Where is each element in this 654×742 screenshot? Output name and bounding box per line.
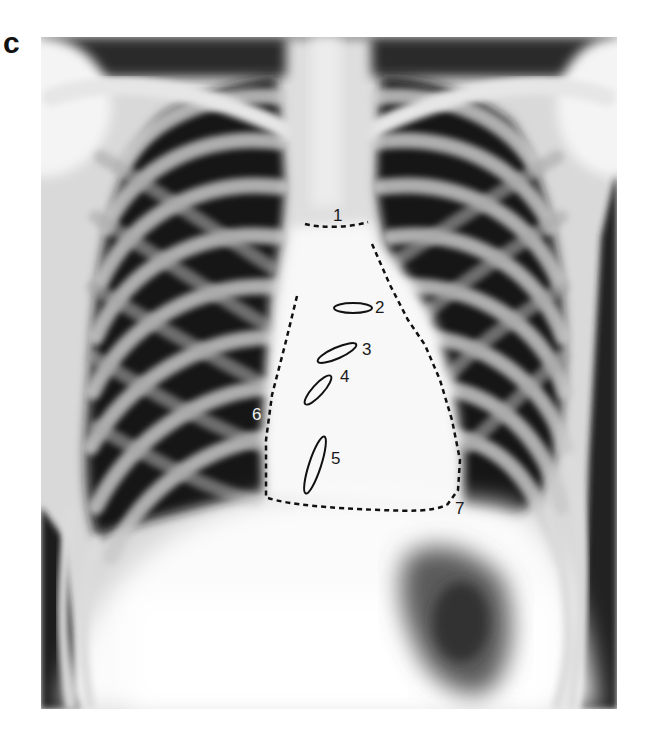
panel-label: c xyxy=(3,28,20,58)
xray-drawing xyxy=(41,37,617,709)
chest-xray-image xyxy=(41,37,617,709)
